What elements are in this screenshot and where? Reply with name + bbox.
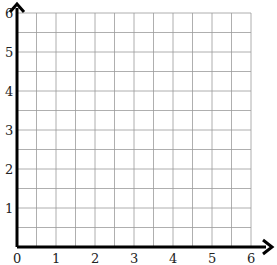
x-tick-label: 5 <box>208 252 216 265</box>
y-tick-label: 6 <box>5 7 13 20</box>
x-tick-label: 0 <box>13 252 21 265</box>
y-tick-label: 5 <box>5 46 13 59</box>
y-tick-label: 3 <box>5 124 13 137</box>
x-tick-label: 4 <box>169 252 177 265</box>
y-tick-label: 1 <box>5 202 13 215</box>
x-tick-label: 6 <box>247 252 255 265</box>
y-tick-label: 2 <box>5 163 13 176</box>
y-tick-label: 4 <box>5 85 13 98</box>
x-tick-label: 3 <box>130 252 138 265</box>
x-tick-label: 2 <box>91 252 99 265</box>
grid-lines <box>17 13 251 247</box>
x-tick-label: 1 <box>52 252 60 265</box>
coordinate-grid <box>0 0 277 265</box>
